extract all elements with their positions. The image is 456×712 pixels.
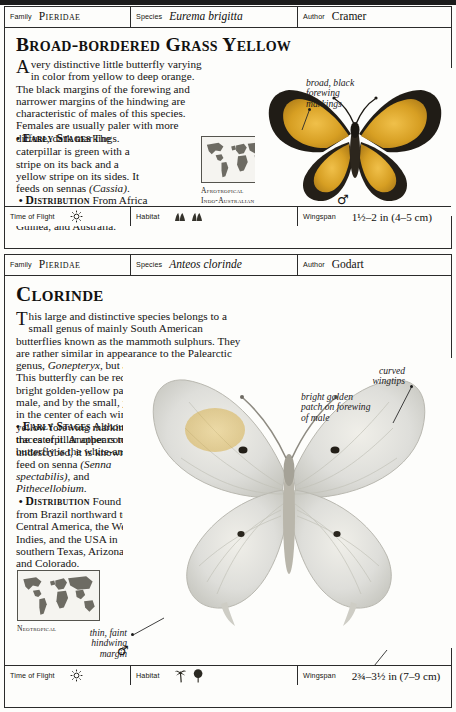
species-entry-anteos-clorinde: Family Pieridae Species Anteos clorinde … — [4, 254, 452, 708]
species-cell: Species Anteos clorinde — [131, 255, 298, 275]
species-value: Anteos clorinde — [169, 258, 242, 270]
map-caption: Afrotropical Indo-Australian — [201, 186, 254, 205]
annotation-dot — [308, 108, 311, 111]
annotation-dot — [410, 385, 413, 388]
species-value: Eurema brigitta — [169, 10, 242, 22]
time-of-flight-label: Time of Flight — [10, 671, 55, 680]
family-label: Family — [10, 12, 32, 21]
anteos-clorinde-graphic — [123, 358, 453, 648]
habitat-label: Habitat — [136, 671, 159, 680]
family-value: Pieridae — [39, 10, 81, 22]
annotation-forewing-markings: broad, black forewing markings — [306, 78, 354, 109]
early-stages-heading: Early Stages — [23, 132, 91, 145]
distribution-heading: Distribution — [26, 495, 90, 508]
annotation-dot — [131, 633, 134, 636]
map-caption: Neotropical — [17, 624, 56, 634]
author-value: Cramer — [332, 10, 366, 22]
species-label: Species — [136, 12, 162, 21]
early-stages-text-2: . — [127, 182, 130, 194]
habitat-icons — [174, 669, 204, 683]
habitat-cell: Habitat — [131, 666, 298, 685]
family-value: Pieridae — [39, 258, 81, 270]
drop-cap: A — [16, 58, 31, 74]
wingspan-label: Wingspan — [303, 671, 336, 680]
page-top-rule — [0, 0, 456, 5]
common-name-title: Broad-bordered Grass Yellow — [16, 34, 291, 56]
grassland-icon — [174, 211, 186, 222]
early-stages-hostplant: (Cassia) — [89, 182, 127, 194]
entry-header-row: Family Pieridae Species Eurema brigitta … — [5, 7, 451, 28]
habitat-icons — [174, 211, 203, 222]
author-label: Author — [303, 260, 325, 269]
sun-icon — [70, 669, 83, 682]
wingspan-cell: Wingspan 1½–2 in (4–5 cm) — [298, 207, 451, 226]
author-label: Author — [303, 12, 325, 21]
habitat-label: Habitat — [136, 212, 159, 221]
common-name-title: Clorinde — [16, 282, 104, 307]
early-stages-heading: Early Stages — [23, 420, 91, 433]
male-symbol: ♂ — [117, 643, 129, 658]
distribution-map — [17, 570, 100, 621]
field-guide-page: Family Pieridae Species Eurema brigitta … — [0, 0, 456, 712]
time-of-flight-cell: Time of Flight — [5, 666, 131, 685]
time-of-flight-cell: Time of Flight — [5, 207, 131, 226]
butterfly-specimen-image — [255, 68, 455, 216]
wingspan-value: 1½–2 in (4–5 cm) — [352, 211, 432, 223]
family-cell: Family Pieridae — [5, 7, 131, 27]
species-cell: Species Eurema brigitta — [131, 7, 298, 27]
palm-tree-icon — [174, 669, 187, 683]
wingspan-label: Wingspan — [303, 212, 336, 221]
eurema-brigitta-graphic — [255, 68, 455, 216]
early-stages-text-3: . — [84, 482, 87, 494]
bullet-distribution: • — [16, 194, 26, 206]
wingspan-cell: Wingspan 2¾–3½ in (7–9 cm) — [298, 666, 451, 685]
entry-body: Broad-bordered Grass Yellow A very disti… — [5, 28, 451, 226]
wingspan-value: 2¾–3½ in (7–9 cm) — [352, 670, 441, 682]
butterfly-specimen-image — [123, 358, 453, 648]
family-cell: Family Pieridae — [5, 255, 131, 275]
entry-header-row: Family Pieridae Species Anteos clorinde … — [5, 255, 451, 276]
entry-footer-row: Time of Flight — [5, 206, 451, 226]
annotation-curved-wingtips: curved wingtips — [343, 366, 405, 387]
early-stages-text-2: , and — [68, 470, 90, 482]
entry-body: Clorinde This large and distinctive spec… — [5, 276, 451, 685]
time-of-flight-icons — [70, 210, 83, 223]
bullet-distribution: • — [16, 495, 26, 507]
bullet-early-stages: • — [16, 420, 23, 432]
description-text: very distinctive little butterfly varyin… — [16, 58, 202, 144]
species-label: Species — [136, 260, 162, 269]
author-cell: Author Cramer — [298, 7, 451, 27]
annotation-golden-patch: bright golden patch on forewing of male — [301, 392, 370, 423]
author-value: Godart — [332, 258, 364, 270]
species-entry-eurema-brigitta: Family Pieridae Species Eurema brigitta … — [4, 6, 452, 249]
drop-cap: T — [16, 310, 29, 326]
time-of-flight-icons — [70, 669, 83, 682]
time-of-flight-label: Time of Flight — [10, 212, 55, 221]
author-cell: Author Godart — [298, 255, 451, 275]
family-label: Family — [10, 260, 32, 269]
grassland-icon — [191, 211, 203, 222]
habitat-cell: Habitat — [131, 207, 298, 226]
entry-footer-row: Time of Flight — [5, 665, 451, 685]
broadleaf-tree-icon — [192, 669, 204, 683]
early-stages-hostplant-2: Pithecellobium — [16, 482, 84, 494]
bullet-early-stages: • — [16, 132, 23, 144]
sun-icon — [70, 210, 83, 223]
related-genus: Gonepteryx — [48, 359, 100, 371]
male-symbol: ♂ — [337, 192, 349, 207]
world-map-graphic — [18, 571, 99, 620]
